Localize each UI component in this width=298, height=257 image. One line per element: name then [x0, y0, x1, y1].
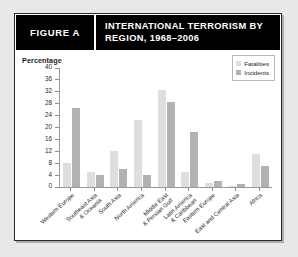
x-axis-tick-mark — [141, 187, 142, 191]
bar-group[interactable] — [154, 68, 178, 187]
y-axis-tick-label: 28 — [45, 99, 52, 106]
figure-container: FIGURE A INTERNATIONAL TERRORISM BY REGI… — [14, 13, 282, 241]
y-axis-tick-label: 40 — [45, 63, 52, 70]
bar-fatalities[interactable] — [181, 172, 189, 187]
bar-fatalities[interactable] — [158, 90, 166, 187]
bar-fatalities[interactable] — [134, 120, 142, 187]
legend-label: Fatalities — [244, 60, 269, 67]
x-axis-label: Africa — [248, 192, 264, 207]
bar-incidents[interactable] — [167, 102, 175, 187]
y-axis-tick-label: 32 — [45, 87, 52, 94]
figure-header: FIGURE A INTERNATIONAL TERRORISM BY REGI… — [16, 15, 280, 50]
x-axis-tick-mark — [94, 187, 95, 191]
x-axis-tick-mark — [235, 187, 236, 191]
bar-group[interactable] — [131, 68, 155, 187]
y-axis-title: Percentage — [22, 56, 62, 65]
bar-incidents[interactable] — [72, 108, 80, 187]
y-axis-tick-label: 24 — [45, 111, 52, 118]
bar-fatalities[interactable] — [87, 172, 95, 187]
bar-fatalities[interactable] — [110, 151, 118, 187]
chart-body: Percentage 0481216202428323640 Western E… — [15, 51, 281, 241]
x-axis-labels: Western EuropeSoutheast Asia& OceaniaSou… — [59, 191, 271, 239]
bar-incidents[interactable] — [143, 175, 151, 187]
legend-item[interactable]: Fatalities — [236, 59, 269, 68]
bar-incidents[interactable] — [119, 169, 127, 187]
y-axis-tick-label: 4 — [48, 171, 52, 178]
x-axis-tick-mark — [259, 187, 260, 191]
x-axis-label-cell: East and Central Asia — [224, 191, 248, 239]
y-axis: 0481216202428323640 — [15, 68, 59, 187]
bar-group[interactable] — [225, 68, 249, 187]
bar-group[interactable] — [84, 68, 108, 187]
y-axis-tick-label: 8 — [48, 159, 52, 166]
bar-group[interactable] — [107, 68, 131, 187]
bar-fatalities[interactable] — [63, 163, 71, 187]
bar-incidents[interactable] — [261, 166, 269, 187]
bar-incidents[interactable] — [96, 175, 104, 187]
bar-group[interactable] — [249, 68, 273, 187]
bar-group[interactable] — [178, 68, 202, 187]
y-axis-tick-label: 0 — [48, 182, 52, 189]
bar-group[interactable] — [60, 68, 84, 187]
legend-swatch-icon — [236, 70, 241, 75]
bar-incidents[interactable] — [190, 132, 198, 187]
bar-groups — [60, 68, 272, 187]
legend-item[interactable]: Incidents — [236, 68, 269, 77]
x-axis-tick-mark — [188, 187, 189, 191]
bar-group[interactable] — [201, 68, 225, 187]
x-axis-tick-mark — [70, 187, 71, 191]
x-axis-tick-mark — [212, 187, 213, 191]
bar-fatalities[interactable] — [252, 154, 260, 187]
legend-swatch-icon — [236, 61, 241, 66]
x-axis-tick-mark — [165, 187, 166, 191]
y-axis-tick-label: 16 — [45, 135, 52, 142]
x-axis-tick-mark — [117, 187, 118, 191]
legend-label: Incidents — [244, 69, 269, 76]
figure-title: INTERNATIONAL TERRORISM BY REGION, 1968–… — [96, 15, 280, 50]
plot-area — [59, 68, 272, 188]
y-axis-tick-label: 20 — [45, 123, 52, 130]
y-axis-tick-label: 36 — [45, 75, 52, 82]
y-axis-tick-label: 12 — [45, 147, 52, 154]
chart-legend: FatalitiesIncidents — [232, 55, 275, 81]
figure-label: FIGURE A — [16, 15, 96, 50]
x-axis-label-cell: Africa — [248, 191, 272, 239]
